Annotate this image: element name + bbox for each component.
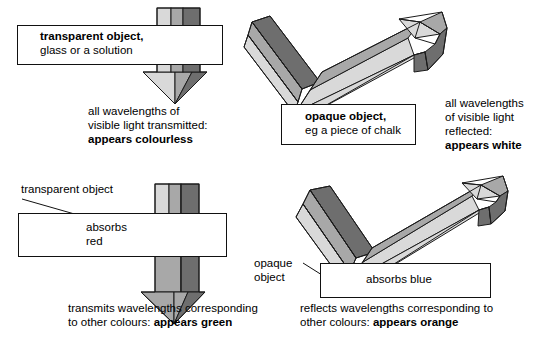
transparent-object-box-label-line2: glass or a solution <box>40 44 133 58</box>
bottom-right-pointer-label-line2: object <box>254 271 285 285</box>
top-left-caption-line3: appears colourless <box>88 133 193 147</box>
absorbs-red-label-line2: red <box>86 235 103 249</box>
bottom-left-caption-line2-plain: to other colours: <box>68 316 154 328</box>
opaque-object-box-label-line1: opaque object, <box>305 110 386 124</box>
bottom-left-caption-line2: to other colours: appears green <box>68 316 232 330</box>
bottom-right-pointer-label-line1: opaque <box>254 257 292 271</box>
bottom-left-pointer-label: transparent object <box>21 183 113 197</box>
absorbs-red-label-line1: absorbs <box>86 221 127 235</box>
absorbs-blue-label: absorbs blue <box>366 273 432 287</box>
bottom-right-caption-line2: other colours: appears orange <box>300 316 459 330</box>
bottom-right-caption-line2-plain: other colours: <box>300 316 373 328</box>
bottom-left-caption-line2-bold: appears green <box>154 316 233 328</box>
top-right-reflected-beam <box>244 12 447 115</box>
top-right-caption-line3: reflected: <box>445 125 492 139</box>
top-right-caption-line1: all wavelengths <box>445 97 524 111</box>
top-right-caption-line4: appears white <box>445 139 522 153</box>
absorbs-red-box <box>18 213 227 257</box>
top-left-caption-line1: all wavelengths of <box>88 105 179 119</box>
diagram-canvas: .oL{fill:#d9d9d9;stroke:#1b1b1b;stroke-w… <box>0 0 533 340</box>
transparent-object-box-label-line1: transparent object, <box>40 30 144 44</box>
bottom-left-caption-line1: transmits wavelengths corresponding <box>68 302 258 316</box>
bottom-right-caption-line2-bold: appears orange <box>373 316 459 328</box>
bottom-right-caption-line1: reflects wavelengths corresponding to <box>300 302 493 316</box>
opaque-object-box-label-line2: eg a piece of chalk <box>305 124 401 138</box>
top-right-caption-line2: of visible light <box>445 111 514 125</box>
top-left-caption-line2: visible light transmitted: <box>88 119 208 133</box>
